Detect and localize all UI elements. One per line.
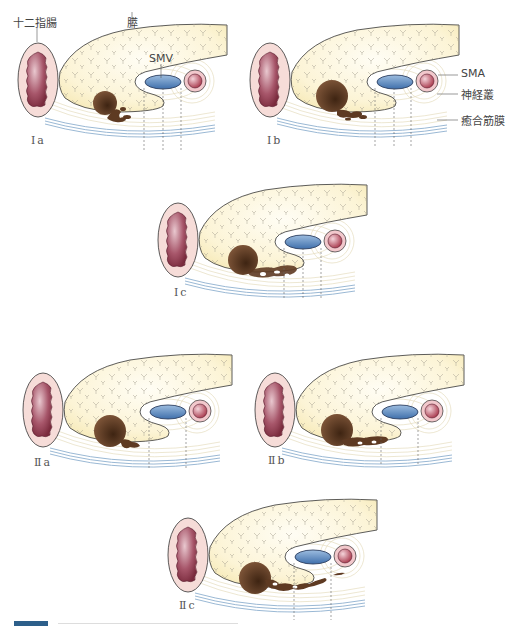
figure-caption-line bbox=[58, 623, 238, 624]
label-pancreas: 膵 bbox=[127, 14, 138, 30]
panel-label-Ia: Ⅰa bbox=[31, 134, 46, 147]
panel-label-IIc: Ⅱc bbox=[179, 599, 197, 612]
panel-label-IIb: Ⅱb bbox=[268, 454, 287, 467]
panel-Ib: SMA 神経叢 癒合筋膜 Ⅰb bbox=[237, 0, 462, 155]
panel-label-IIa: Ⅱa bbox=[34, 456, 52, 469]
label-sma: SMA bbox=[461, 67, 485, 80]
panel-label-Ib: Ⅰb bbox=[267, 134, 282, 147]
panel-IIb: Ⅱb bbox=[242, 330, 467, 485]
figure-caption-bar bbox=[14, 621, 48, 626]
label-smv: SMV bbox=[149, 52, 173, 65]
panel-IIc: Ⅱc bbox=[155, 475, 380, 626]
panel-IIa: Ⅱa bbox=[10, 330, 235, 485]
label-nerve-plexus: 神経叢 bbox=[461, 86, 494, 102]
label-duodenum: 十二指腸 bbox=[13, 14, 57, 30]
panel-label-Ic: Ⅰc bbox=[174, 286, 189, 299]
panel-Ic: Ⅰc bbox=[145, 160, 370, 315]
panel-Ia: 十二指腸 膵 SMV Ⅰa bbox=[5, 0, 230, 155]
label-fusion-fascia: 癒合筋膜 bbox=[461, 112, 505, 128]
